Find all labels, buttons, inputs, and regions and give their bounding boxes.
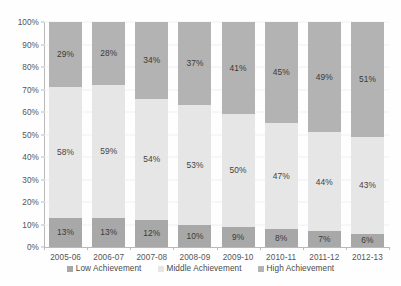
x-tick-label: 2009-10 — [223, 253, 254, 262]
bar-segment-value-label: 28% — [100, 49, 117, 57]
x-tick-mark — [130, 247, 131, 250]
bar-segment-value-label: 13% — [57, 228, 74, 236]
x-tick-label: 2010-11 — [266, 253, 296, 262]
y-tick-label: 50% — [22, 130, 44, 139]
bar-segment[interactable]: 51% — [351, 22, 384, 137]
bar-group[interactable]: 12%54%34% — [135, 22, 168, 247]
x-tick-label: 2012-13 — [352, 253, 383, 262]
bar-segment[interactable]: 45% — [265, 22, 298, 123]
bar-segment-value-label: 10% — [186, 232, 203, 240]
bar-segment-value-label: 51% — [359, 75, 376, 83]
bar-group[interactable]: 13%58%29% — [49, 22, 82, 247]
y-tick-label: 70% — [22, 85, 44, 94]
legend-item[interactable]: High Achievement — [258, 264, 335, 273]
bar-segment[interactable]: 58% — [49, 87, 82, 218]
bar-group[interactable]: 8%47%45% — [265, 22, 298, 247]
bar-segment[interactable]: 43% — [351, 137, 384, 234]
legend-item[interactable]: Low Achievement — [67, 264, 142, 273]
bar-segment[interactable]: 34% — [135, 22, 168, 99]
x-tick-label: 2008-09 — [180, 253, 211, 262]
bar-segment-value-label: 47% — [273, 172, 290, 180]
bar-segment[interactable]: 9% — [222, 227, 255, 247]
stacked-bar-chart: 0%10%20%30%40%50%60%70%80%90%100% 13%58%… — [0, 0, 401, 286]
legend-label: Low Achievement — [76, 264, 142, 273]
bar-segment[interactable]: 59% — [92, 85, 125, 218]
y-tick-label: 100% — [18, 18, 44, 27]
legend-label: High Achievement — [267, 264, 335, 273]
bar-segment-value-label: 41% — [230, 64, 247, 72]
bar-segment[interactable]: 28% — [92, 22, 125, 85]
bar-group[interactable]: 10%53%37% — [178, 22, 211, 247]
bars-layer: 13%58%29%13%59%28%12%54%34%10%53%37%9%50… — [44, 22, 389, 247]
bar-segment[interactable]: 37% — [178, 22, 211, 105]
bar-segment-value-label: 54% — [143, 155, 160, 163]
x-tick-label: 2006-07 — [93, 253, 124, 262]
legend-swatch-icon — [258, 266, 264, 272]
bar-segment[interactable]: 6% — [351, 234, 384, 248]
bar-segment[interactable]: 13% — [92, 218, 125, 247]
bar-segment-value-label: 8% — [275, 234, 287, 242]
bar-segment[interactable]: 44% — [308, 132, 341, 231]
bar-segment[interactable]: 41% — [222, 22, 255, 114]
bar-segment-value-label: 53% — [186, 161, 203, 169]
chart-legend: Low AchievementMiddle AchievementHigh Ac… — [0, 264, 401, 273]
x-tick-mark — [44, 247, 45, 250]
bar-segment-value-label: 9% — [232, 233, 244, 241]
plot-area: 0%10%20%30%40%50%60%70%80%90%100% 13%58%… — [44, 22, 389, 247]
bar-group[interactable]: 9%50%41% — [222, 22, 255, 247]
legend-swatch-icon — [67, 266, 73, 272]
legend-item[interactable]: Middle Achievement — [158, 264, 242, 273]
bar-group[interactable]: 13%59%28% — [92, 22, 125, 247]
x-tick-mark — [260, 247, 261, 250]
bar-segment-value-label: 44% — [316, 178, 333, 186]
bar-segment[interactable]: 12% — [135, 220, 168, 247]
bar-segment-value-label: 58% — [57, 148, 74, 156]
x-tick-mark — [303, 247, 304, 250]
bar-segment-value-label: 37% — [186, 59, 203, 67]
bar-segment-value-label: 34% — [143, 56, 160, 64]
bar-group[interactable]: 6%43%51% — [351, 22, 384, 247]
bar-segment[interactable]: 47% — [265, 123, 298, 229]
bar-segment[interactable]: 13% — [49, 218, 82, 247]
bar-segment[interactable]: 7% — [308, 231, 341, 247]
y-tick-label: 80% — [22, 63, 44, 72]
legend-label: Middle Achievement — [167, 264, 242, 273]
x-tick-mark — [173, 247, 174, 250]
bar-segment-value-label: 7% — [318, 235, 330, 243]
bar-segment[interactable]: 8% — [265, 229, 298, 247]
bar-segment-value-label: 45% — [273, 68, 290, 76]
x-tick-mark — [346, 247, 347, 250]
bar-segment[interactable]: 54% — [135, 99, 168, 221]
bar-segment-value-label: 13% — [100, 228, 117, 236]
bar-segment[interactable]: 53% — [178, 105, 211, 224]
bar-segment-value-label: 50% — [230, 166, 247, 174]
x-tick-mark — [87, 247, 88, 250]
bar-segment-value-label: 43% — [359, 181, 376, 189]
x-tick-mark — [217, 247, 218, 250]
bar-segment-value-label: 29% — [57, 50, 74, 58]
y-tick-label: 90% — [22, 40, 44, 49]
bar-segment-value-label: 49% — [316, 73, 333, 81]
bar-segment[interactable]: 49% — [308, 22, 341, 132]
x-tick-mark — [389, 247, 390, 250]
bar-segment[interactable]: 10% — [178, 225, 211, 248]
y-tick-label: 10% — [22, 220, 44, 229]
y-tick-label: 60% — [22, 108, 44, 117]
x-tick-label: 2007-08 — [136, 253, 167, 262]
bar-segment-value-label: 59% — [100, 147, 117, 155]
bar-segment[interactable]: 29% — [49, 22, 82, 87]
y-tick-label: 30% — [22, 175, 44, 184]
bar-segment-value-label: 12% — [143, 229, 160, 237]
bar-segment[interactable]: 50% — [222, 114, 255, 227]
bar-group[interactable]: 7%44%49% — [308, 22, 341, 247]
y-tick-label: 20% — [22, 198, 44, 207]
x-tick-label: 2011-12 — [309, 253, 339, 262]
y-tick-label: 40% — [22, 153, 44, 162]
y-tick-label: 0% — [27, 243, 44, 252]
bar-segment-value-label: 6% — [361, 236, 373, 244]
legend-swatch-icon — [158, 266, 164, 272]
x-tick-label: 2005-06 — [50, 253, 81, 262]
